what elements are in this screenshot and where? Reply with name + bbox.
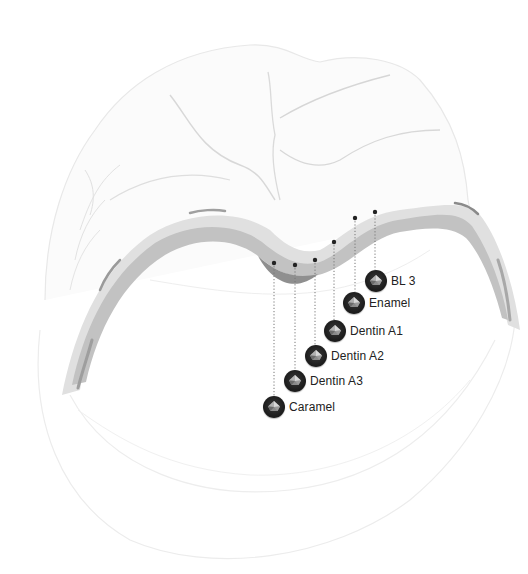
gem-icon <box>365 270 387 292</box>
layer-label: Dentin A3 <box>284 370 363 392</box>
gem-icon <box>263 396 285 418</box>
layer-label-text: Dentin A3 <box>310 374 363 388</box>
layer-label-text: Dentin A1 <box>350 324 403 338</box>
anchor-dot <box>373 210 377 214</box>
anchor-dot <box>332 240 336 244</box>
occlusal-outline <box>45 45 470 300</box>
gem-icon <box>305 345 327 367</box>
layer-label: Dentin A1 <box>324 320 403 342</box>
anchor-dot <box>272 261 276 265</box>
gem-icon <box>343 292 365 314</box>
gem-icon <box>284 370 306 392</box>
layer-label: Caramel <box>263 396 335 418</box>
tooth-illustration <box>0 0 528 574</box>
layer-label-text: BL 3 <box>391 274 416 288</box>
layer-label: Dentin A2 <box>305 345 384 367</box>
layer-label: Enamel <box>343 292 410 314</box>
layer-label-text: Enamel <box>369 296 410 310</box>
layer-label-text: Caramel <box>289 400 335 414</box>
anchor-dot <box>313 258 317 262</box>
gem-icon <box>324 320 346 342</box>
crown-base-outline <box>38 320 515 559</box>
tooth-layer-diagram: BL 3EnamelDentin A1Dentin A2Dentin A3Car… <box>0 0 528 574</box>
anchor-dot <box>293 263 297 267</box>
layer-label: BL 3 <box>365 270 416 292</box>
layer-label-text: Dentin A2 <box>331 349 384 363</box>
anchor-dot <box>353 216 357 220</box>
